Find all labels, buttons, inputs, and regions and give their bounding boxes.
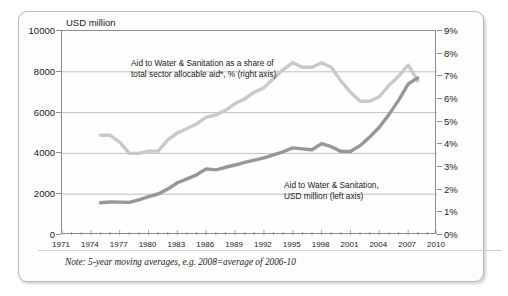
right-axis-tick: [437, 30, 442, 31]
left-axis-tick: [56, 193, 61, 194]
left-axis-tick-label: 2000: [19, 188, 55, 199]
right-axis-tick-label: 0%: [444, 229, 470, 240]
left-axis-tick-label: 8000: [19, 65, 55, 76]
x-axis-tick-label: 2010: [419, 240, 453, 249]
right-axis-tick-label: 8%: [444, 47, 470, 58]
right-axis-tick: [437, 166, 442, 167]
right-axis-tick: [437, 121, 442, 122]
left-axis-tick-label: 10000: [19, 25, 55, 36]
left-axis-tick-label: 4000: [19, 147, 55, 158]
gridlines: [62, 72, 437, 194]
right-axis-tick-label: 6%: [444, 93, 470, 104]
chart-frame: USD million 0200040006000800010000 0%1%2…: [18, 11, 484, 282]
right-axis-tick: [437, 211, 442, 212]
right-axis-tick: [437, 53, 442, 54]
right-axis-tick-label: 3%: [444, 161, 470, 172]
right-axis-tick-label: 4%: [444, 138, 470, 149]
right-axis-tick-label: 7%: [444, 70, 470, 81]
annotation-share: Aid to Water & Sanitation as a share oft…: [131, 58, 276, 80]
right-axis-tick-label: 9%: [444, 25, 470, 36]
left-axis-tick: [56, 30, 61, 31]
right-axis-tick-label: 5%: [444, 115, 470, 126]
annotation-line: Aid to Water & Sanitation,: [284, 180, 379, 191]
right-axis-tick: [437, 98, 442, 99]
left-axis-tick: [56, 234, 61, 235]
right-axis-tick: [437, 75, 442, 76]
right-axis-tick-label: 2%: [444, 183, 470, 194]
right-axis-tick: [437, 143, 442, 144]
left-axis-tick-label: 0: [19, 229, 55, 240]
annotation-line: Aid to Water & Sanitation as a share of: [131, 58, 276, 69]
right-axis-tick: [437, 234, 442, 235]
left-axis-unit-label: USD million: [66, 17, 116, 28]
left-axis-tick: [56, 152, 61, 153]
left-axis-tick-label: 6000: [19, 106, 55, 117]
chart-note: Note: 5-year moving averages, e.g. 2008=…: [65, 257, 296, 267]
right-axis-tick: [437, 189, 442, 190]
annotation-line: USD million (left axis): [284, 191, 379, 202]
annotation-volume: Aid to Water & Sanitation,USD million (l…: [284, 180, 379, 202]
right-axis-tick-label: 1%: [444, 206, 470, 217]
left-axis-tick: [56, 112, 61, 113]
x-axis-minor-ticks: [62, 230, 437, 235]
annotation-line: total sector allocable aid*, % (right ax…: [131, 69, 276, 80]
left-axis-tick: [56, 71, 61, 72]
note-divider: [38, 250, 502, 251]
